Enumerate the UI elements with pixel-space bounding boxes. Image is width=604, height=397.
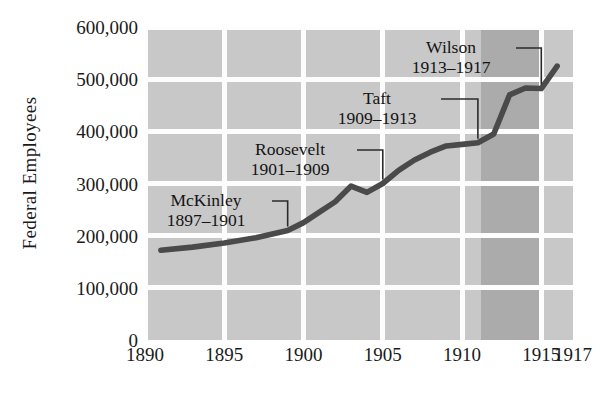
annotation-taft: Taft1909–1913 <box>317 89 437 128</box>
x-tick-label: 1900 <box>285 345 323 364</box>
annotation-president-name: McKinley <box>144 191 268 211</box>
y-tick-label: 400,000 <box>38 122 138 141</box>
annotation-president-name: Wilson <box>390 38 512 58</box>
y-tick-label: 500,000 <box>38 70 138 89</box>
y-tick-label: 100,000 <box>38 278 138 297</box>
y-tick-label: 600,000 <box>38 18 138 37</box>
annotation-term-years: 1897–1901 <box>144 211 268 231</box>
y-axis-tick-labels: 0100,000200,000300,000400,000500,000600,… <box>38 0 138 397</box>
annotation-roosevelt: Roosevelt1901–1909 <box>227 140 353 179</box>
annotation-wilson: Wilson1913–1917 <box>390 38 512 77</box>
x-tick-label: 1895 <box>205 345 243 364</box>
x-tick-label: 1890 <box>126 345 164 364</box>
x-tick-label: 1917 <box>554 345 592 364</box>
annotation-term-years: 1909–1913 <box>317 109 437 129</box>
x-tick-label: 1910 <box>443 345 481 364</box>
annotation-term-years: 1913–1917 <box>390 58 512 78</box>
leader-line-taft <box>441 99 478 139</box>
y-tick-label: 300,000 <box>38 174 138 193</box>
y-tick-label: 0 <box>38 331 138 350</box>
leader-line-roosevelt <box>357 150 383 180</box>
y-tick-label: 200,000 <box>38 226 138 245</box>
annotation-president-name: Taft <box>317 89 437 109</box>
leader-line-mckinley <box>272 201 288 226</box>
annotation-mckinley: McKinley1897–1901 <box>144 191 268 230</box>
figure-chart-federal-employees: Federal Employees 0100,000200,000300,000… <box>0 0 604 397</box>
x-tick-label: 1905 <box>364 345 402 364</box>
annotation-term-years: 1901–1909 <box>227 160 353 180</box>
leader-line-wilson <box>516 48 541 85</box>
annotation-president-name: Roosevelt <box>227 140 353 160</box>
x-axis-tick-labels: 1890189519001905191019151917 <box>145 345 573 375</box>
